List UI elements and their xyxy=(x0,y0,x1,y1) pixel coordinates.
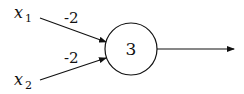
input-x2-label: x xyxy=(14,70,23,89)
input-x2-subscript: 2 xyxy=(25,79,32,92)
input-x1-subscript: 1 xyxy=(25,12,32,25)
weight-x1-label: -2 xyxy=(64,9,79,27)
perceptron-diagram: x 1 x 2 -2 -2 3 xyxy=(0,0,244,94)
weight-x2-label: -2 xyxy=(64,49,79,67)
input-x1-label: x xyxy=(14,3,23,22)
input-x2: x 2 xyxy=(14,70,32,92)
input-x1: x 1 xyxy=(14,3,32,25)
neuron-bias-label: 3 xyxy=(126,39,137,59)
